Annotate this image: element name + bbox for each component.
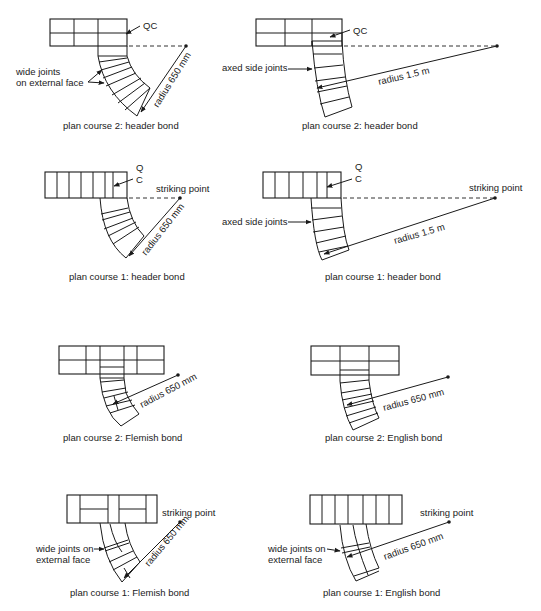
panel-course2-english-650: radius 650 mm plan course 2: English bon… — [311, 346, 450, 443]
panel-course2-header-650: QC wide joints on external face radius 6… — [15, 19, 193, 131]
qc-label: QC — [353, 25, 367, 36]
panel-course2-flemish-650: radius 650 mm plan course 2: Flemish bon… — [59, 346, 198, 443]
panel-course1-english-650: striking point wide joints on external f… — [267, 495, 474, 598]
radius-label: radius 650 mm — [382, 386, 446, 413]
radius-label: radius 650 mm — [150, 50, 193, 109]
qc-label: QC — [143, 20, 157, 31]
axed-joints-label: axed side joints — [222, 216, 288, 227]
q-label: Q — [136, 162, 143, 173]
panel-course1-flemish-650: striking point wide joints on external f… — [35, 495, 216, 598]
wide-joints-label-2: external face — [268, 554, 322, 565]
wide-joints-label-2: external face — [36, 554, 90, 565]
striking-point-label: striking point — [156, 183, 210, 194]
radius-label: radius 650 mm — [138, 371, 199, 410]
axed-joints-label: axed side joints — [222, 62, 288, 73]
caption: plan course 2: header bond — [302, 120, 418, 131]
panel-course1-header-650: Q C striking point radius 650 mm plan co… — [45, 162, 210, 282]
wide-joints-label: wide joints — [15, 66, 61, 77]
striking-point-label: striking point — [162, 507, 216, 518]
caption: plan course 2: header bond — [63, 120, 179, 131]
radius-label: radius 1.5 m — [393, 221, 446, 246]
panel-course1-header-1500: Q C striking point axed side joints radi… — [222, 161, 523, 282]
caption: plan course 1: English bond — [323, 587, 440, 598]
q-label: Q — [355, 161, 362, 172]
c-label: C — [355, 173, 362, 184]
wide-joints-label: wide joints on — [35, 543, 94, 554]
caption: plan course 2: English bond — [325, 432, 442, 443]
caption: plan course 1: Flemish bond — [70, 587, 189, 598]
wide-joints-label-2: on external face — [16, 77, 84, 88]
brickwork-diagram: QC wide joints on external face radius 6… — [0, 0, 541, 611]
striking-point-label: striking point — [469, 182, 523, 193]
radius-label: radius 650 mm — [382, 530, 445, 562]
caption: plan course 1: header bond — [325, 271, 441, 282]
radius-label: radius 650 mm — [139, 201, 186, 257]
wide-joints-label: wide joints on — [267, 543, 326, 554]
panel-course2-header-1500: QC axed side joints radius 1.5 m plan co… — [222, 19, 499, 131]
c-label: C — [136, 174, 143, 185]
caption: plan course 1: header bond — [69, 271, 185, 282]
caption: plan course 2: Flemish bond — [63, 432, 182, 443]
striking-point-label: striking point — [420, 507, 474, 518]
